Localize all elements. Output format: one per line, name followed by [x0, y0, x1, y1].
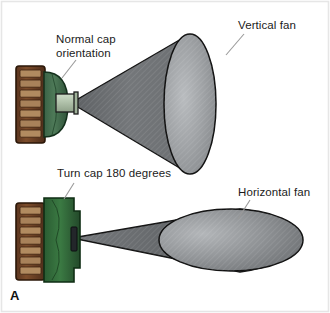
horizontal-fan-face-texture: [159, 209, 303, 271]
cartridge-band: [20, 257, 41, 264]
leader-vertical-fan: [226, 34, 244, 55]
cartridge-band: [20, 70, 41, 77]
figure-container: Normal cap orientation Vertical fan Turn…: [0, 0, 330, 313]
cartridge-band: [20, 217, 41, 224]
cartridge-band: [20, 130, 41, 137]
leader-normal-cap: [62, 60, 76, 78]
figure-illustration: [0, 0, 330, 313]
label-normal-cap-orientation: Normal cap orientation: [56, 33, 116, 60]
cartridge-band: [20, 207, 41, 214]
top-nozzle-tip: [74, 92, 78, 114]
top-cartridge: [16, 66, 45, 143]
label-vertical-fan: Vertical fan: [238, 19, 296, 33]
bottom-cartridge: [16, 203, 45, 280]
label-turn-cap-180-degrees: Turn cap 180 degrees: [57, 167, 171, 181]
top-nozzle-tube: [56, 94, 76, 112]
horizontal-fan-group: [72, 209, 303, 272]
bottom-cap: [44, 198, 80, 282]
cartridge-band: [20, 247, 41, 254]
vertical-fan-face-texture: [164, 34, 216, 174]
cartridge-band: [20, 80, 41, 87]
label-horizontal-fan: Horizontal fan: [238, 186, 310, 200]
cartridge-band: [20, 110, 41, 117]
cartridge-band: [20, 90, 41, 97]
top-nozzle: [56, 92, 78, 114]
cartridge-band: [20, 267, 41, 274]
cartridge-band: [20, 237, 41, 244]
cartridge-band: [20, 120, 41, 127]
cartridge-band: [20, 227, 41, 234]
leader-turn-cap: [64, 183, 74, 199]
cartridge-band: [20, 100, 41, 107]
panel-letter: A: [10, 288, 19, 303]
bottom-nozzle-slot: [71, 227, 77, 251]
